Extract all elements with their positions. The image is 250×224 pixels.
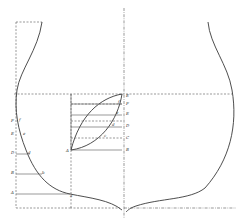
- left-vessel-profile: [16, 22, 122, 210]
- label-left-A: A: [10, 190, 14, 195]
- label-left-D: D: [10, 150, 15, 155]
- label-center-E: E: [125, 111, 129, 116]
- label-curve-e: e: [116, 110, 119, 115]
- label-center-B: B: [125, 147, 129, 152]
- label-curve-d: d: [112, 122, 115, 127]
- label-left-d: d: [28, 150, 31, 155]
- label-left-f: f: [18, 117, 22, 122]
- label-center-D: D: [125, 123, 130, 128]
- label-center-C: C: [126, 135, 129, 140]
- label-left-B: B: [10, 170, 14, 175]
- label-center-A: A: [65, 148, 69, 153]
- label-left-F: F: [10, 118, 14, 123]
- label-center-F: F: [125, 101, 129, 106]
- label-left-b: b: [42, 170, 45, 175]
- label-centerline: E: [125, 93, 129, 98]
- label-curve-c: c: [104, 133, 107, 138]
- label-left-E: E: [10, 131, 14, 136]
- vessel-construction-diagram: F f E e D d B b A a F E D C B f e d c A …: [0, 0, 250, 224]
- label-left-e: e: [23, 131, 26, 136]
- right-vessel-profile: [126, 22, 234, 212]
- label-left-a: a: [70, 193, 73, 198]
- diagram-canvas: F f E e D d B b A a F E D C B f e d c A …: [0, 0, 250, 224]
